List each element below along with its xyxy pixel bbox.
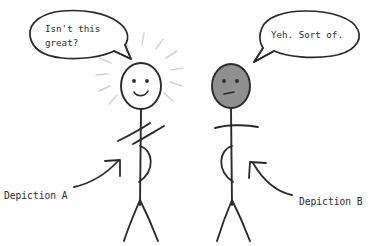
neutral-head	[212, 64, 250, 108]
bubble-left-line-1: Isn't this	[45, 23, 100, 34]
b-arms	[215, 125, 258, 128]
neutral-eye-right	[235, 79, 239, 83]
a-leg-left	[124, 200, 140, 241]
speech-bubble-left	[30, 10, 131, 59]
depiction-a-figure	[118, 63, 164, 241]
b-neck-and-spine	[231, 108, 232, 205]
happy-eye-left	[132, 79, 136, 83]
happy-eye-right	[145, 79, 149, 83]
a-arm-right	[133, 126, 164, 144]
annotation-arrow-a	[74, 160, 120, 187]
depiction-b-label: Depiction B	[299, 196, 363, 207]
cartoon-scene: Isn't this great? Yeh. Sort of.	[0, 0, 383, 246]
b-leg-right	[232, 200, 250, 241]
a-leg-right	[140, 200, 158, 241]
happy-head	[121, 63, 161, 109]
a-neck-and-spine	[140, 109, 141, 205]
bubble-left-line-2: great?	[45, 37, 78, 48]
b-leg-left	[217, 200, 232, 241]
depiction-a-label: Depiction A	[4, 190, 68, 201]
a-arm-left	[118, 123, 150, 141]
depiction-b-figure	[212, 64, 258, 241]
bubble-right-line-1: Yeh. Sort of.	[271, 29, 343, 40]
annotation-arrow-b	[249, 162, 292, 195]
cartoon-illustration: Isn't this great? Yeh. Sort of.	[0, 0, 383, 246]
neutral-eye-left	[222, 79, 226, 83]
